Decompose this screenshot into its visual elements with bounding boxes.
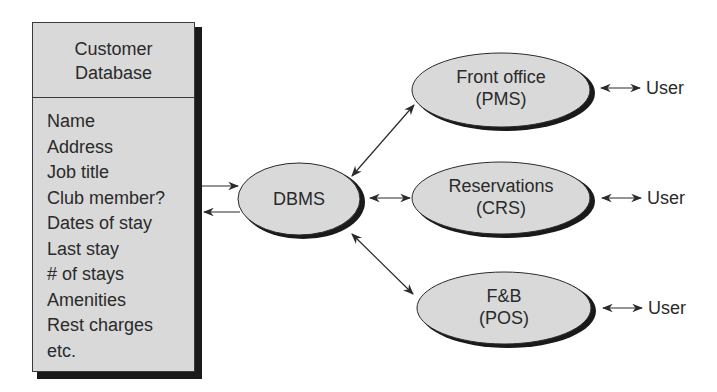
- customer-database-title: Customer Database: [33, 23, 194, 98]
- reservations-name: Reservations: [421, 175, 581, 197]
- user-label-fb: User: [648, 298, 686, 319]
- field-item: Address: [47, 135, 165, 161]
- fb-code: (POS): [424, 307, 584, 329]
- arrow-dbms-fb: [352, 234, 413, 294]
- reservations-code: (CRS): [421, 197, 581, 219]
- fb-label: F&B (POS): [424, 285, 584, 329]
- field-item: Name: [47, 109, 165, 135]
- field-item: Dates of stay: [47, 211, 165, 237]
- front-office-name: Front office: [421, 66, 581, 88]
- title-line-1: Customer: [33, 37, 194, 61]
- dbms-label: DBMS: [249, 188, 349, 210]
- field-item: Job title: [47, 160, 165, 186]
- field-item: etc.: [47, 339, 165, 365]
- user-label-reservations: User: [647, 188, 685, 209]
- title-line-2: Database: [33, 61, 194, 85]
- field-item: Rest charges: [47, 313, 165, 339]
- field-item: # of stays: [47, 262, 165, 288]
- reservations-label: Reservations (CRS): [421, 175, 581, 219]
- field-item: Club member?: [47, 186, 165, 212]
- customer-fields-list: Name Address Job title Club member? Date…: [47, 109, 165, 364]
- field-item: Amenities: [47, 288, 165, 314]
- front-office-code: (PMS): [421, 88, 581, 110]
- field-item: Last stay: [47, 237, 165, 263]
- front-office-label: Front office (PMS): [421, 66, 581, 110]
- customer-database-box: Customer Database Name Address Job title…: [32, 22, 195, 372]
- arrow-dbms-front-office: [352, 105, 414, 176]
- user-label-front-office: User: [646, 78, 684, 99]
- fb-name: F&B: [424, 285, 584, 307]
